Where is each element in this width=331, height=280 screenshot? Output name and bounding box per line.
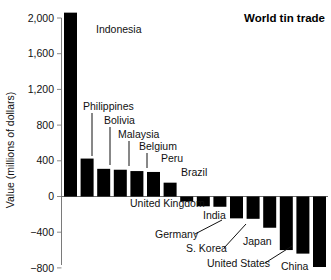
bar-labels-group: IndonesiaPhilippinesBoliviaMalaysiaBelgi… bbox=[83, 23, 309, 272]
world-tin-trade-bar-chart: World tin trade Value (millions of dolla… bbox=[0, 0, 331, 280]
bar bbox=[164, 183, 177, 197]
bar bbox=[230, 197, 243, 219]
bar bbox=[81, 159, 94, 197]
bar bbox=[247, 197, 260, 219]
y-tick-label: −800 bbox=[30, 262, 54, 274]
bar bbox=[147, 172, 160, 197]
bar-label: India bbox=[203, 209, 226, 221]
label-leader-line bbox=[195, 220, 222, 234]
bar bbox=[313, 197, 326, 268]
bar bbox=[97, 169, 110, 197]
chart-title: World tin trade bbox=[244, 12, 325, 24]
y-axis-ticks: 2,0001,6001,2008004000−400−800 bbox=[28, 12, 62, 274]
bar bbox=[296, 197, 309, 254]
bar-label: S. Korea bbox=[186, 242, 227, 254]
bar bbox=[114, 170, 127, 197]
y-tick-label: 2,000 bbox=[28, 12, 54, 24]
bar-label: Philippines bbox=[83, 100, 134, 112]
bar bbox=[280, 197, 293, 251]
y-tick-label: 0 bbox=[48, 190, 54, 202]
bar-label: Peru bbox=[161, 152, 183, 164]
chart-container: World tin trade Value (millions of dolla… bbox=[0, 0, 331, 280]
bar-label: China bbox=[281, 260, 309, 272]
bar-label: United Kingdom bbox=[130, 197, 205, 209]
bar-label: Bolivia bbox=[104, 114, 135, 126]
bar-label: Brazil bbox=[181, 166, 207, 178]
y-axis-title: Value (millions of dollars) bbox=[4, 92, 16, 209]
y-tick-label: 1,600 bbox=[28, 47, 54, 59]
bar-label: United States bbox=[207, 257, 270, 269]
y-tick-label: 800 bbox=[36, 119, 54, 131]
bar bbox=[263, 197, 276, 228]
bar bbox=[64, 13, 77, 197]
y-tick-label: 1,200 bbox=[28, 83, 54, 95]
bar bbox=[130, 171, 143, 196]
bar-label: Malaysia bbox=[118, 128, 160, 140]
y-tick-label: 400 bbox=[36, 154, 54, 166]
y-tick-label: −400 bbox=[30, 226, 54, 238]
bar-label: Japan bbox=[243, 235, 272, 247]
bar-label: Belgium bbox=[139, 140, 177, 152]
bar-label: Indonesia bbox=[96, 23, 142, 35]
bar-label: Germany bbox=[155, 228, 199, 240]
bar bbox=[213, 197, 226, 207]
